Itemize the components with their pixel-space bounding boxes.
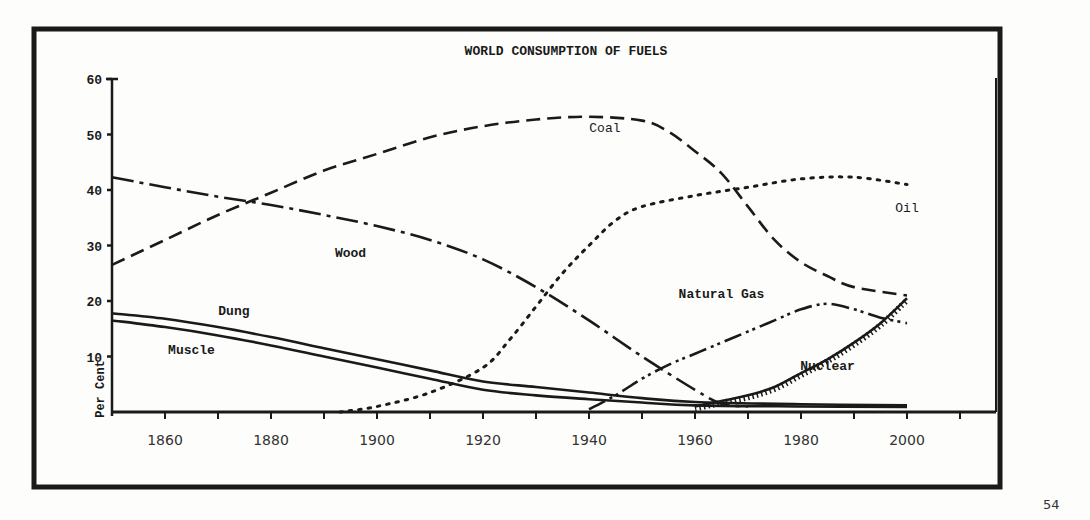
x-tick-label: 1980 (783, 432, 819, 448)
series-label-coal: Coal (589, 121, 620, 136)
y-tick-label: 50 (86, 129, 102, 144)
x-tick-label: 1920 (465, 432, 501, 448)
y-tick-label: 30 (86, 240, 102, 255)
x-tick-label: 1860 (147, 432, 183, 448)
series-label-oil: Oil (895, 201, 919, 216)
series-label-nuclear: Nuclear (800, 359, 855, 374)
series-group (112, 117, 907, 412)
series-line-wood (112, 177, 748, 406)
series-label-natural-gas: Natural Gas (679, 287, 765, 302)
x-tick-label: 1900 (359, 432, 395, 448)
x-tick-label: 1880 (253, 432, 289, 448)
x-tick-label: 2000 (889, 432, 925, 448)
series-line-coal (112, 117, 907, 296)
y-tick-label: 40 (86, 184, 102, 199)
y-axis-label: Per Cent (94, 360, 108, 418)
page-number: 54 (1043, 497, 1060, 512)
series-line-nuclear (695, 298, 907, 406)
y-tick-label: 20 (86, 295, 102, 310)
series-label-muscle: Muscle (168, 343, 215, 358)
x-tick-label: 1940 (571, 432, 607, 448)
outer-frame (34, 29, 1000, 487)
series-line-dung (112, 313, 907, 405)
series-line-natural-gas (589, 304, 907, 409)
y-tick-label: 60 (86, 73, 102, 88)
x-tick-label: 1960 (677, 432, 713, 448)
chart-title: WORLD CONSUMPTION OF FUELS (465, 44, 668, 59)
series-label-wood: Wood (335, 246, 366, 261)
series-label-dung: Dung (218, 304, 249, 319)
axes: 1020304050601860188019001920194019601980… (86, 73, 996, 448)
series-labels: CoalWoodDungMuscleOilNatural GasNuclear (168, 121, 919, 375)
series-line-muscle (112, 320, 907, 407)
fuel-consumption-chart: WORLD CONSUMPTION OF FUELS 1020304050601… (0, 0, 1090, 520)
